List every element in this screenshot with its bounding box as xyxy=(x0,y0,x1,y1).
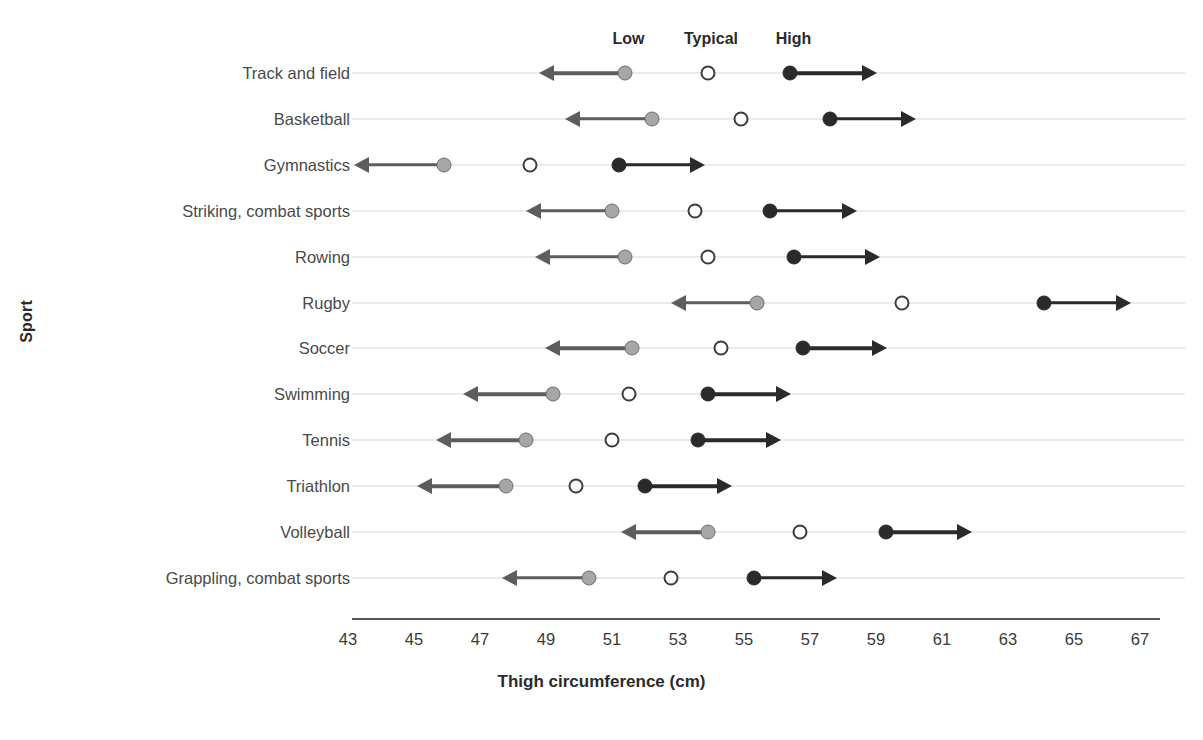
low-marker-dot xyxy=(519,433,534,448)
low-range-segment xyxy=(559,347,632,351)
typical-marker-dot xyxy=(687,203,702,218)
x-tick-label: 65 xyxy=(1065,630,1083,649)
high-marker-dot xyxy=(786,249,801,264)
low-arrow-icon xyxy=(436,432,451,448)
low-range-segment xyxy=(477,393,553,397)
typical-marker-dot xyxy=(664,570,679,585)
typical-marker-dot xyxy=(568,479,583,494)
low-arrow-icon xyxy=(545,340,560,356)
row-label-track-and-field: Track and field xyxy=(242,64,350,83)
typical-marker-dot xyxy=(621,387,636,402)
typical-marker-dot xyxy=(895,295,910,310)
x-tick-label: 57 xyxy=(801,630,819,649)
high-arrow-icon xyxy=(690,157,705,173)
high-arrow-icon xyxy=(957,524,972,540)
low-arrow-icon xyxy=(565,111,580,127)
low-marker-dot xyxy=(700,525,715,540)
low-range-segment xyxy=(579,117,652,121)
x-axis-line xyxy=(352,618,1160,620)
low-arrow-icon xyxy=(354,157,369,173)
high-marker-dot xyxy=(1037,295,1052,310)
high-range-segment xyxy=(645,484,718,488)
low-arrow-icon xyxy=(502,570,517,586)
low-arrow-icon xyxy=(417,478,432,494)
typical-marker-dot xyxy=(793,525,808,540)
high-range-segment xyxy=(886,530,959,534)
row-label-striking-combat-sports: Striking, combat sports xyxy=(182,201,350,220)
high-marker-dot xyxy=(611,157,626,172)
row-baseline xyxy=(352,73,1185,74)
row-baseline xyxy=(352,256,1185,257)
low-marker-dot xyxy=(605,203,620,218)
high-arrow-icon xyxy=(872,340,887,356)
low-range-segment xyxy=(553,71,626,75)
row-baseline xyxy=(352,118,1185,119)
x-tick-label: 55 xyxy=(735,630,753,649)
low-arrow-icon xyxy=(535,249,550,265)
high-arrow-icon xyxy=(776,386,791,402)
low-marker-dot xyxy=(618,66,633,81)
high-arrow-icon xyxy=(766,432,781,448)
low-range-segment xyxy=(540,209,613,213)
low-range-segment xyxy=(450,438,526,442)
low-arrow-icon xyxy=(463,386,478,402)
high-range-segment xyxy=(698,438,767,442)
low-range-segment xyxy=(516,576,589,580)
low-marker-dot xyxy=(581,570,596,585)
x-tick-label: 49 xyxy=(537,630,555,649)
low-arrow-icon xyxy=(539,65,554,81)
typical-marker-dot xyxy=(605,433,620,448)
y-axis-title: Sport xyxy=(18,300,36,343)
low-range-segment xyxy=(549,255,625,259)
group-header-low: Low xyxy=(613,30,645,48)
high-range-segment xyxy=(708,393,777,397)
low-marker-dot xyxy=(545,387,560,402)
high-marker-dot xyxy=(690,433,705,448)
x-tick-label: 67 xyxy=(1131,630,1149,649)
high-range-segment xyxy=(619,163,692,167)
x-tick-label: 43 xyxy=(339,630,357,649)
high-arrow-icon xyxy=(717,478,732,494)
high-arrow-icon xyxy=(1116,295,1131,311)
row-label-triathlon: Triathlon xyxy=(286,477,350,496)
row-label-rowing: Rowing xyxy=(295,247,350,266)
low-range-segment xyxy=(685,301,758,305)
x-tick-label: 47 xyxy=(471,630,489,649)
typical-marker-dot xyxy=(733,111,748,126)
low-range-segment xyxy=(635,530,708,534)
row-label-basketball: Basketball xyxy=(274,109,350,128)
low-arrow-icon xyxy=(671,295,686,311)
high-marker-dot xyxy=(638,479,653,494)
low-marker-dot xyxy=(618,249,633,264)
high-marker-dot xyxy=(763,203,778,218)
high-arrow-icon xyxy=(862,65,877,81)
high-marker-dot xyxy=(700,387,715,402)
x-tick-label: 59 xyxy=(867,630,885,649)
x-tick-label: 45 xyxy=(405,630,423,649)
low-marker-dot xyxy=(750,295,765,310)
typical-marker-dot xyxy=(713,341,728,356)
high-marker-dot xyxy=(878,525,893,540)
x-tick-label: 51 xyxy=(603,630,621,649)
typical-marker-dot xyxy=(522,157,537,172)
typical-marker-dot xyxy=(700,249,715,264)
row-baseline xyxy=(352,348,1185,349)
x-tick-label: 63 xyxy=(999,630,1017,649)
low-marker-dot xyxy=(624,341,639,356)
low-arrow-icon xyxy=(621,524,636,540)
x-tick-label: 61 xyxy=(933,630,951,649)
high-marker-dot xyxy=(746,570,761,585)
high-arrow-icon xyxy=(901,111,916,127)
typical-marker-dot xyxy=(700,66,715,81)
row-label-soccer: Soccer xyxy=(299,339,350,358)
group-header-typical: Typical xyxy=(684,30,738,48)
row-baseline xyxy=(352,532,1185,533)
row-label-swimming: Swimming xyxy=(274,385,350,404)
row-baseline xyxy=(352,164,1185,165)
row-label-grappling-combat-sports: Grappling, combat sports xyxy=(166,568,350,587)
high-marker-dot xyxy=(796,341,811,356)
high-marker-dot xyxy=(783,66,798,81)
row-label-gymnastics: Gymnastics xyxy=(264,155,350,174)
chart-container: Sport Thigh circumference (cm) LowTypica… xyxy=(0,0,1203,740)
high-arrow-icon xyxy=(842,203,857,219)
